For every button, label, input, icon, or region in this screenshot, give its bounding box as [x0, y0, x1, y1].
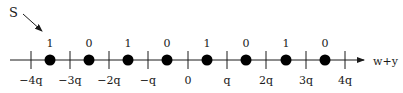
tick-label: 3q — [299, 74, 313, 87]
point-value-label: 0 — [322, 37, 329, 50]
tick-label: q — [223, 74, 230, 87]
tick-label: −2q — [97, 74, 120, 87]
tick-label: −3q — [58, 74, 81, 87]
tick-label: 4q — [338, 74, 352, 87]
point-value-label: 1 — [47, 37, 54, 50]
point-value-label: 0 — [86, 37, 93, 50]
tick-label: −4q — [19, 74, 42, 87]
point-dot — [241, 55, 252, 66]
point-value-label: 1 — [283, 37, 290, 50]
tick-label: 2q — [259, 74, 273, 87]
point-dot — [202, 55, 213, 66]
point-dot — [123, 55, 134, 66]
point-dot — [320, 55, 331, 66]
point-dot — [162, 55, 173, 66]
point-value-label: 0 — [164, 37, 171, 50]
tick-label: −q — [140, 74, 156, 87]
tick-group: −4q−3q−2q−q0q2q3q4q — [19, 51, 352, 87]
point-value-label: 1 — [204, 37, 211, 50]
pointer-arrow-icon — [23, 14, 42, 31]
tick-label: 0 — [185, 74, 192, 87]
point-value-label: 0 — [243, 37, 250, 50]
number-line-diagram: S w+y −4q−3q−2q−q0q2q3q4q 10101010 — [0, 0, 403, 93]
point-dot — [45, 55, 56, 66]
point-dot — [281, 55, 292, 66]
point-dot — [84, 55, 95, 66]
point-value-label: 1 — [125, 37, 132, 50]
axis-label: w+y — [373, 55, 399, 68]
pointer-label-s: S — [9, 5, 18, 20]
